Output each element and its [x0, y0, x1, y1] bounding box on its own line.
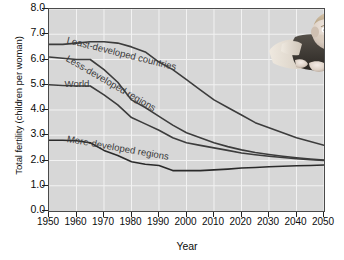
y-tick-label: 2.0	[5, 153, 45, 165]
x-tick-mark	[296, 212, 297, 217]
y-tick-label: 6.0	[5, 52, 45, 64]
fertility-chart-figure: Total fertility (children per woman) 0.0…	[0, 0, 344, 260]
y-tick-label: 5.0	[5, 77, 45, 89]
x-tick-mark	[48, 212, 49, 217]
x-tick-mark	[268, 212, 269, 217]
baby-photo	[265, 11, 325, 81]
x-tick-mark	[186, 212, 187, 217]
x-tick-mark	[158, 212, 159, 217]
series-label: World	[65, 78, 90, 89]
y-tick-label: 1.0	[5, 178, 45, 190]
y-tick-label: 8.0	[5, 1, 45, 13]
x-tick-mark	[76, 212, 77, 217]
x-tick-label: 2050	[303, 216, 343, 227]
y-tick-label: 0.0	[5, 203, 45, 215]
y-tick-label: 7.0	[5, 26, 45, 38]
x-tick-mark	[103, 212, 104, 217]
y-tick-label: 3.0	[5, 127, 45, 139]
x-tick-mark	[213, 212, 214, 217]
x-tick-mark	[131, 212, 132, 217]
x-axis-title: Year	[48, 240, 326, 252]
x-tick-mark	[323, 212, 324, 217]
x-tick-mark	[241, 212, 242, 217]
y-tick-label: 4.0	[5, 102, 45, 114]
